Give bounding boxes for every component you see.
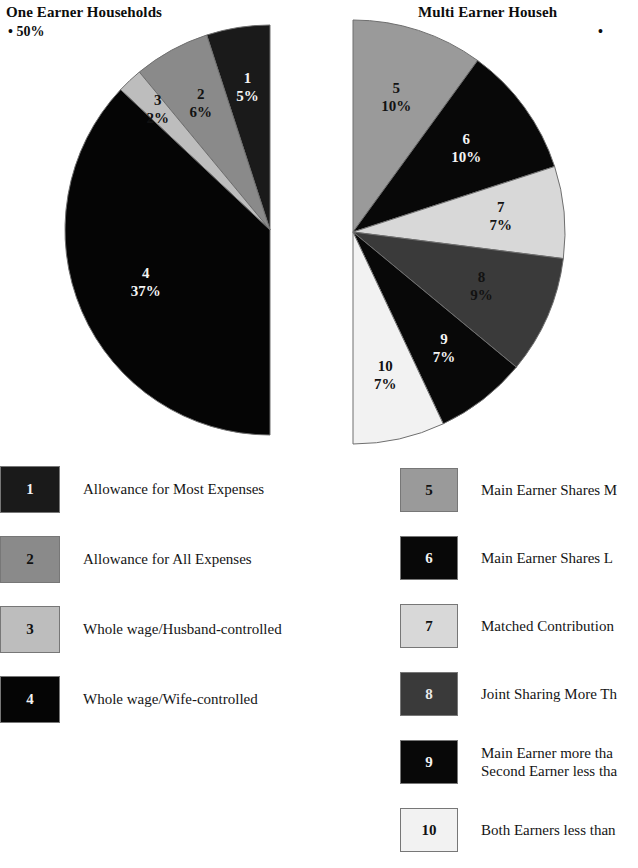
slice-value-6: 10% <box>451 149 481 165</box>
legend-right-number-6: 6 <box>425 551 433 566</box>
slice-value-1: 5% <box>236 88 259 104</box>
legend-left-label-2: Allowance for All Expenses <box>83 550 252 568</box>
slice-number-10: 10 <box>378 358 393 374</box>
legend-right-row-8[interactable]: 8Joint Sharing More Th <box>400 672 638 716</box>
legend-left-row-4[interactable]: 4Whole wage/Wife-controlled <box>0 676 330 723</box>
slice-value-8: 9% <box>470 287 493 303</box>
legend-right-number-7: 7 <box>425 619 433 634</box>
legend-left-row-1[interactable]: 1Allowance for Most Expenses <box>0 466 330 513</box>
left-pie-svg: 15%26%32%437% <box>0 18 340 448</box>
legend-left-swatch-4: 4 <box>0 676 60 723</box>
legend-left-number-4: 4 <box>26 692 34 707</box>
slice-number-9: 9 <box>440 331 448 347</box>
legend-right-swatch-6: 6 <box>400 536 458 580</box>
legend-right-swatch-5: 5 <box>400 468 458 512</box>
legend-right-number-9: 9 <box>425 755 433 770</box>
legend-right-swatch-7: 7 <box>400 604 458 648</box>
legend-right-label-6: Main Earner Shares L <box>481 549 613 567</box>
legend-left-number-2: 2 <box>26 552 34 567</box>
slice-number-4: 4 <box>142 265 150 281</box>
left-legend: 1Allowance for Most Expenses2Allowance f… <box>0 452 330 723</box>
slice-value-10: 7% <box>374 376 397 392</box>
right-pie-svg: 510%610%77%89%97%107% <box>330 18 638 448</box>
slice-number-6: 6 <box>462 131 470 147</box>
legend-right-number-5: 5 <box>425 483 433 498</box>
legend-left-row-3[interactable]: 3Whole wage/Husband-controlled <box>0 606 330 653</box>
right-legend: 5Main Earner Shares M6Main Earner Shares… <box>400 452 638 852</box>
legend-right-label-5: Main Earner Shares M <box>481 481 617 499</box>
legend-left-swatch-2: 2 <box>0 536 60 583</box>
legend-left-row-2[interactable]: 2Allowance for All Expenses <box>0 536 330 583</box>
legend-left-swatch-3: 3 <box>0 606 60 653</box>
slice-number-1: 1 <box>244 70 252 86</box>
legend-left-swatch-1: 1 <box>0 466 60 513</box>
slice-value-2: 6% <box>190 104 213 120</box>
legend-right-label-10: Both Earners less than <box>481 821 616 839</box>
legend-right-label-7: Matched Contribution <box>481 617 614 635</box>
legend-left-label-3: Whole wage/Husband-controlled <box>83 620 282 638</box>
legend-right-label-9: Main Earner more thaSecond Earner less t… <box>481 744 617 781</box>
legend-right-swatch-10: 10 <box>400 808 458 852</box>
slice-number-8: 8 <box>478 269 486 285</box>
slice-value-4: 37% <box>131 283 161 299</box>
legend-left-number-1: 1 <box>26 482 34 497</box>
legend-left-number-3: 3 <box>26 622 34 637</box>
legend-right-swatch-9: 9 <box>400 740 458 784</box>
legend-right-row-7[interactable]: 7Matched Contribution <box>400 604 638 648</box>
left-pie-chart: 15%26%32%437% <box>0 18 340 448</box>
legend-right-swatch-8: 8 <box>400 672 458 716</box>
legend-left-label-4: Whole wage/Wife-controlled <box>83 690 258 708</box>
legend-left-label-1: Allowance for Most Expenses <box>83 480 264 498</box>
legend-right-number-8: 8 <box>425 687 433 702</box>
slice-value-5: 10% <box>381 98 411 114</box>
slice-value-3: 2% <box>146 110 169 126</box>
page-root: One Earner Households • 50% Multi Earner… <box>0 0 638 868</box>
legend-right-row-9[interactable]: 9Main Earner more thaSecond Earner less … <box>400 740 638 784</box>
legend-right-number-10: 10 <box>422 823 437 838</box>
slice-number-2: 2 <box>197 86 205 102</box>
legend-right-row-6[interactable]: 6Main Earner Shares L <box>400 536 638 580</box>
slice-value-7: 7% <box>489 217 512 233</box>
right-pie-chart: 510%610%77%89%97%107% <box>330 18 638 448</box>
legend-right-row-10[interactable]: 10Both Earners less than <box>400 808 638 852</box>
slice-value-9: 7% <box>433 349 456 365</box>
slice-number-7: 7 <box>497 199 505 215</box>
legend-right-row-5[interactable]: 5Main Earner Shares M <box>400 468 638 512</box>
slice-number-5: 5 <box>392 80 400 96</box>
slice-number-3: 3 <box>154 92 162 108</box>
legend-right-label-8: Joint Sharing More Th <box>481 685 617 703</box>
